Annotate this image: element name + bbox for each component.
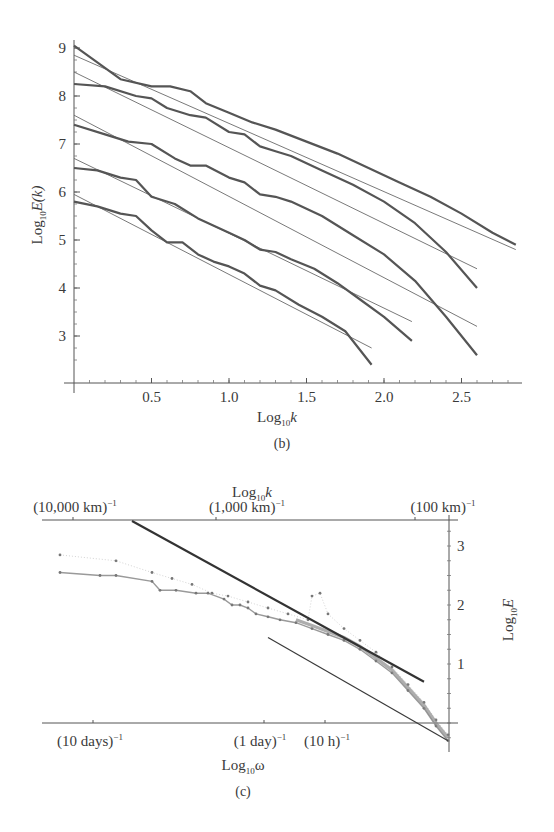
chart-c-point [267, 615, 270, 618]
chart-b-x-tick-label: 0.5 [142, 389, 161, 405]
chart-c-y-tick-label: 1 [457, 656, 465, 672]
chart-c-series-band [296, 620, 448, 738]
chart-c-bottom-tick-label: (10 h)−1 [304, 732, 350, 750]
chart-c-reference-line [132, 521, 424, 682]
chart-c-point [311, 595, 314, 598]
chart-c-point [175, 589, 178, 592]
chart-c-y-tick-label: 3 [457, 538, 465, 554]
chart-b-x-axis-title: Log10k [257, 409, 297, 428]
chart-b-fit-line-5 [74, 194, 372, 348]
chart-c-point [99, 574, 102, 577]
chart-b-fit-line-2 [74, 72, 477, 269]
chart-c-point [279, 618, 282, 621]
chart-b-y-tick-label: 7 [59, 136, 67, 152]
chart-b-series-2 [74, 84, 477, 288]
chart-c-point [171, 577, 174, 580]
chart-b-fit-line-3 [74, 115, 477, 326]
chart-c-point [191, 583, 194, 586]
chart-c-point [115, 559, 118, 562]
chart-c-point [327, 613, 330, 616]
chart-c-point [59, 571, 62, 574]
chart-b-caption: (b) [274, 436, 291, 452]
chart-b-x-tick-label: 2.5 [452, 389, 471, 405]
chart-b-y-axis-title: Log10E(k) [29, 186, 48, 245]
chart-c-top-tick-label: (100 km)−1 [411, 498, 476, 516]
chart-b-series-5 [74, 202, 372, 365]
chart-b-y-tick-label: 6 [59, 184, 67, 200]
chart-c-bottom-axis-title: Log10ω [221, 757, 264, 776]
chart-c-point [207, 592, 210, 595]
chart-b-y-tick-label: 9 [59, 40, 67, 56]
chart-c-point [375, 651, 378, 654]
chart-b-x-tick-label: 1.5 [297, 389, 316, 405]
chart-b: 0.51.01.52.02.5 3456789 Log10k Log10E(k)… [29, 40, 522, 452]
chart-c-point [223, 598, 226, 601]
chart-c-point [287, 613, 290, 616]
chart-b-y-tick-label: 5 [59, 232, 67, 248]
chart-c-point [359, 639, 362, 642]
chart-c: Log10k (10,000 km)−1(1,000 km)−1(100 km)… [33, 484, 519, 800]
chart-c-top-tick-label: (1,000 km)−1 [209, 498, 285, 516]
chart-c-top-tick-label: (10,000 km)−1 [33, 498, 117, 516]
chart-b-series-4 [74, 168, 412, 341]
chart-c-point [247, 607, 250, 610]
chart-b-series-1 [74, 46, 516, 245]
chart-b-series-3 [74, 125, 477, 355]
chart-c-series-spectrum-lower [60, 573, 448, 741]
chart-c-point [239, 604, 242, 607]
chart-c-point [151, 580, 154, 583]
chart-c-right-axis-title: Log10E [500, 599, 519, 641]
chart-c-point [195, 592, 198, 595]
chart-b-x-tick-label: 1.0 [220, 389, 239, 405]
chart-c-point [227, 595, 230, 598]
chart-b-y-tick-label: 3 [59, 328, 67, 344]
chart-c-bottom-tick-label: (1 day)−1 [234, 732, 286, 750]
chart-c-point [255, 613, 258, 616]
chart-c-fit-line [268, 637, 448, 740]
chart-c-point [159, 589, 162, 592]
chart-c-point [59, 554, 62, 557]
chart-c-point [319, 592, 322, 595]
chart-b-y-tick-label: 8 [59, 88, 67, 104]
chart-c-caption: (c) [235, 784, 251, 800]
figure: 0.51.01.52.02.5 3456789 Log10k Log10E(k)… [0, 0, 554, 832]
chart-c-point [267, 607, 270, 610]
chart-c-point [115, 574, 118, 577]
chart-c-point [231, 604, 234, 607]
chart-b-y-tick-label: 4 [59, 280, 67, 296]
chart-b-x-tick-label: 2.0 [375, 389, 394, 405]
chart-c-bottom-tick-label: (10 days)−1 [57, 732, 123, 750]
chart-c-point [151, 571, 154, 574]
chart-c-point [247, 601, 250, 604]
chart-c-y-tick-label: 2 [457, 597, 465, 613]
chart-c-point [343, 627, 346, 630]
